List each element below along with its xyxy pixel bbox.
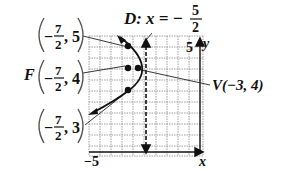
svg-text:−: − [44,119,53,136]
svg-text:−: − [44,70,53,87]
label-latus-bottom: − 7 2 , 3 [39,109,83,143]
directrix [142,39,150,153]
svg-text:, 5: , 5 [64,28,80,45]
axis-x-label: x [198,154,206,169]
label-focus: F − 7 2 , 4 [23,60,83,94]
directrix-arrow-up-icon [142,39,150,47]
svg-text:−: − [44,28,53,45]
directrix-num: 5 [192,3,199,18]
vertex-label: V(−3, 4) [212,77,264,94]
directrix-label-eq: x = − [145,9,183,28]
tick-neg5: −5 [84,154,99,169]
svg-text:2: 2 [55,37,62,52]
svg-text:2: 2 [55,79,62,94]
svg-text:7: 7 [55,112,62,127]
parabola-graph: D: x = − 5 2 5 y −5 x V(−3, 4) − 7 2 , 5… [0,0,287,171]
point-latus-bottom [125,87,131,93]
svg-text:F: F [23,66,35,83]
directrix-den: 2 [192,20,199,35]
svg-text:2: 2 [55,128,62,143]
point-focus [125,65,131,71]
svg-text:, 4: , 4 [64,70,80,87]
directrix-label-prefix: D: [123,9,142,28]
point-vertex [135,65,141,71]
svg-text:, 3: , 3 [64,119,80,136]
point-latus-top [125,43,131,49]
svg-text:7: 7 [55,21,62,36]
svg-text:7: 7 [55,63,62,78]
axis-y-label: y [201,36,210,51]
label-latus-top: − 7 2 , 5 [39,18,83,52]
tick-5: 5 [186,40,193,55]
curve-arrow-bottom-icon [88,108,98,115]
